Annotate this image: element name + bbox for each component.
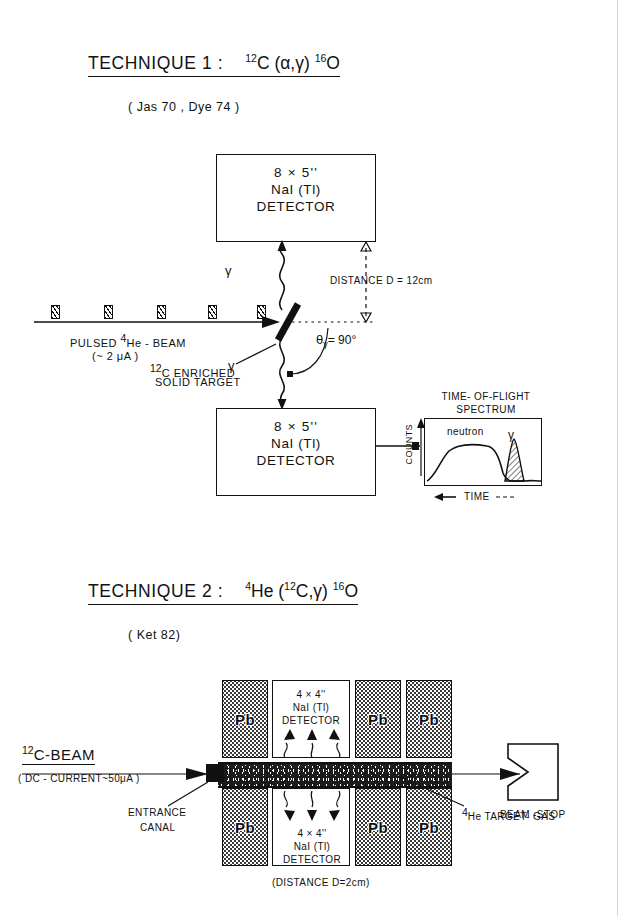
- entrance-canal-label-2: CANAL: [140, 821, 175, 834]
- spectrum-yaxis-label: COUNTS: [404, 424, 414, 464]
- angle-value: = 90°: [328, 333, 357, 347]
- technique-2-upper-detector-text: 4 × 4'' NaI (Tl) DETECTOR: [273, 681, 349, 727]
- t2-lower-detector-size: 4 × 4'': [273, 827, 351, 840]
- reaction-target-symbol: C: [257, 53, 270, 73]
- lead-shield-upper-left: Pb: [222, 680, 268, 758]
- bottom-detector-kind: DETECTOR: [217, 452, 375, 469]
- technique-2-distance-label: (DISTANCE D=2cm): [272, 876, 370, 889]
- technique-2-references: ( Ket 82): [128, 628, 180, 642]
- collimator-slab: [104, 305, 113, 319]
- lead-shield-upper-middle: Pb: [355, 680, 401, 758]
- top-detector-crystal: NaI (Tl): [217, 181, 375, 198]
- technique-1-target-label-2: SOLID TARGET: [155, 375, 241, 389]
- t2-lower-detector-crystal: NaI (Tl): [273, 840, 351, 853]
- technique-2-beam-current: ( DC - CURRENT~50μA ): [18, 772, 140, 785]
- entrance-canal-label-1: ENTRANCE: [128, 806, 186, 819]
- t2-upper-detector-size: 4 × 4'': [273, 688, 349, 701]
- t2-reaction-ejectile: γ: [313, 581, 322, 601]
- target-mass: 12: [150, 362, 162, 374]
- t2-lower-detector-kind: DETECTOR: [273, 853, 351, 866]
- technique-1-top-detector-text: 8 × 5'' NaI (Tl) DETECTOR: [217, 155, 375, 215]
- spectrum-xaxis-tail: [496, 492, 520, 502]
- t2-upper-detector-crystal: NaI (Tl): [273, 701, 349, 714]
- technique-1-references: ( Jas 70 , Dye 74 ): [128, 100, 240, 114]
- technique-2-heading: TECHNIQUE 2 :4He (12C,γ) 16O: [88, 580, 358, 605]
- top-detector-size: 8 × 5'': [217, 164, 375, 181]
- technique-1-top-detector-box: 8 × 5'' NaI (Tl) DETECTOR: [216, 154, 376, 242]
- gamma-arrows-lower: [279, 791, 345, 825]
- gamma-label-up: γ: [225, 263, 232, 278]
- t2-beam-symbol: C-BEAM: [34, 746, 95, 763]
- technique-1-bottom-detector-box: 8 × 5'' NaI (Tl) DETECTOR: [216, 408, 376, 496]
- technique-2-reaction: 4He (12C,γ) 16O: [245, 581, 358, 601]
- bottom-detector-size: 8 × 5'': [217, 418, 375, 435]
- target-gas-label: 4He TARGET- GAS: [462, 806, 555, 823]
- technique-1-heading: TECHNIQUE 1 :12C (α,γ) 16O: [88, 52, 340, 77]
- diagram-page: TECHNIQUE 1 :12C (α,γ) 16O ( Jas 70 , Dy…: [0, 0, 621, 916]
- spectrum-xaxis-label: TIME: [464, 490, 490, 503]
- spectrum-title-line2: SPECTRUM: [428, 403, 544, 416]
- reaction-residual-symbol: O: [326, 53, 340, 73]
- t2-reaction-projectile-mass: 12: [284, 580, 296, 592]
- entrance-canal-leader: [168, 782, 214, 808]
- target-gas-text: He TARGET- GAS: [468, 811, 555, 822]
- technique-2-lower-detector-text: 4 × 4'' NaI (Tl) DETECTOR: [273, 827, 351, 866]
- gamma-ray-down: [252, 338, 312, 410]
- reaction-residual-mass: 16: [315, 52, 327, 64]
- gamma-arrows-upper: [279, 725, 345, 759]
- beam-stop: [506, 742, 562, 802]
- distance-label: DISTANCE D = 12cm: [330, 274, 432, 287]
- technique-2-heading-label: TECHNIQUE 2 :: [88, 581, 223, 601]
- lead-shield-label: Pb: [368, 711, 388, 728]
- technique-2-lower-detector-box: 4 × 4'' NaI (Tl) DETECTOR: [272, 788, 350, 866]
- gamma-label-down: γ: [228, 358, 235, 373]
- collimator-slab: [51, 305, 60, 319]
- technique-1-bottom-detector-text: 8 × 5'' NaI (Tl) DETECTOR: [217, 409, 375, 469]
- target-gas-leader: [398, 776, 470, 808]
- t2-reaction-close-paren: ): [322, 581, 328, 601]
- spectrum-title-line1: TIME- OF-FLIGHT: [428, 390, 544, 403]
- lead-shield-label: Pb: [235, 711, 255, 728]
- lead-shield-upper-right: Pb: [406, 680, 452, 758]
- t2-reaction-residual-symbol: O: [344, 581, 358, 601]
- technique-2-upper-detector-box: 4 × 4'' NaI (Tl) DETECTOR: [272, 680, 350, 758]
- t2-reaction-projectile: C: [296, 581, 309, 601]
- spectrum-neutron-label: neutron: [447, 425, 484, 438]
- reaction-target-mass: 12: [245, 52, 257, 64]
- bottom-detector-crystal: NaI (Tl): [217, 435, 375, 452]
- spectrum-gamma-label: γ: [508, 428, 514, 442]
- technique-2-beam-label: 12C-BEAM: [22, 744, 95, 765]
- top-detector-kind: DETECTOR: [217, 198, 375, 215]
- lead-shield-lower-left: Pb: [222, 788, 268, 866]
- lead-shield-lower-middle: Pb: [355, 788, 401, 866]
- lead-shield-label: Pb: [419, 711, 439, 728]
- lead-shield-label: Pb: [368, 819, 388, 836]
- collimator-slab: [208, 305, 217, 319]
- t2-reaction-target-symbol: He: [251, 581, 273, 601]
- lead-shield-label: Pb: [419, 819, 439, 836]
- scan-edge-artifact: [617, 0, 618, 916]
- spectrum-xaxis-arrow: [434, 492, 460, 502]
- t2-beam-mass: 12: [22, 744, 34, 756]
- lead-shield-label: Pb: [235, 819, 255, 836]
- t2-reaction-residual-mass: 16: [333, 580, 345, 592]
- beam-symbol: He - BEAM: [126, 337, 186, 349]
- technique-1-reaction: 12C (α,γ) 16O: [245, 53, 340, 73]
- reaction-ejectile: γ: [295, 53, 304, 73]
- technique-1-beam-current: (~ 2 μA ): [92, 349, 139, 363]
- collimator-slab: [157, 305, 166, 319]
- reaction-projectile: α: [280, 53, 290, 73]
- gamma-angle-label: θγ= 90°: [316, 332, 356, 349]
- technique-1-beam-label: PULSED 4He - BEAM: [70, 331, 186, 350]
- spectrum-curve: [425, 419, 543, 487]
- technique-1-heading-label: TECHNIQUE 1 :: [88, 53, 223, 73]
- reaction-close-paren: ): [304, 53, 310, 73]
- beam-prefix: PULSED: [70, 337, 117, 349]
- technique-1-beam-line: [34, 318, 274, 326]
